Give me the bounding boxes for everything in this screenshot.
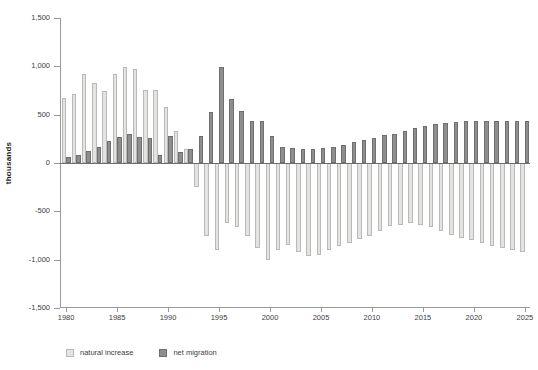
bar-natural-increase-2015 — [418, 163, 422, 225]
bar-net-migration-1991 — [178, 152, 182, 163]
bar-net-migration-1986 — [127, 134, 131, 163]
bar-natural-increase-2006 — [327, 163, 331, 250]
y-tick-label: 1,500 — [4, 13, 50, 22]
bar-net-migration-1982 — [86, 151, 90, 163]
bar-natural-increase-2018 — [449, 163, 453, 235]
bar-natural-increase-2010 — [367, 163, 371, 236]
bar-natural-increase-1995 — [215, 163, 219, 250]
y-tick-label: 1,000 — [4, 61, 50, 70]
bar-net-migration-2010 — [372, 138, 376, 163]
bar-net-migration-2005 — [321, 148, 325, 163]
y-tick-mark — [54, 211, 60, 212]
bar-net-migration-2022 — [494, 121, 498, 163]
bar-net-migration-2025 — [525, 121, 529, 163]
bar-net-migration-2018 — [454, 122, 458, 163]
x-tick-mark — [117, 308, 118, 312]
bar-net-migration-1993 — [199, 136, 203, 163]
bar-net-migration-1995 — [219, 67, 223, 163]
population-change-bar-chart: thousands 1,5001,0005000-500-1,000-1,500… — [0, 0, 538, 370]
x-tick-mark — [168, 308, 169, 312]
bar-natural-increase-2002 — [286, 163, 290, 245]
bar-natural-increase-2003 — [296, 163, 300, 252]
x-tick-mark — [270, 308, 271, 312]
bar-net-migration-2012 — [392, 134, 396, 163]
bar-natural-increase-1980 — [62, 98, 66, 163]
x-tick-label: 2020 — [454, 313, 494, 322]
bar-natural-increase-2020 — [469, 163, 473, 240]
bar-net-migration-1989 — [158, 155, 162, 163]
x-tick-mark — [423, 308, 424, 312]
bar-natural-increase-1981 — [72, 94, 76, 163]
y-tick-mark — [54, 115, 60, 116]
y-tick-label: -1,000 — [4, 255, 50, 264]
bar-natural-increase-2001 — [276, 163, 280, 250]
bar-natural-increase-1998 — [245, 163, 249, 236]
bar-net-migration-1981 — [76, 155, 80, 163]
zero-baseline — [60, 163, 530, 164]
bar-net-migration-2011 — [382, 135, 386, 163]
bar-net-migration-2019 — [464, 121, 468, 163]
bar-natural-increase-1999 — [255, 163, 259, 248]
bar-net-migration-1985 — [117, 137, 121, 163]
x-tick-mark — [66, 308, 67, 312]
bar-natural-increase-2022 — [490, 163, 494, 246]
bar-net-migration-1994 — [209, 112, 213, 163]
bar-net-migration-1984 — [107, 141, 111, 163]
bar-net-migration-2009 — [362, 140, 366, 163]
bar-natural-increase-2016 — [429, 163, 433, 227]
bar-natural-increase-2023 — [500, 163, 504, 248]
bar-net-migration-1987 — [137, 137, 141, 163]
legend-label-net-migration: net migration — [173, 348, 216, 357]
x-tick-label: 2005 — [301, 313, 341, 322]
y-tick-mark — [54, 308, 60, 309]
x-tick-mark — [474, 308, 475, 312]
bar-net-migration-1999 — [260, 121, 264, 163]
y-tick-label: -1,500 — [4, 303, 50, 312]
bar-net-migration-1992 — [188, 149, 192, 163]
y-tick-label: 0 — [4, 158, 50, 167]
bar-net-migration-2013 — [403, 131, 407, 163]
y-tick-label: 500 — [4, 110, 50, 119]
bar-net-migration-1990 — [168, 136, 172, 163]
bar-natural-increase-2000 — [266, 163, 270, 260]
legend-swatch-natural-increase — [66, 349, 74, 357]
bar-natural-increase-1996 — [225, 163, 229, 223]
bar-net-migration-2023 — [505, 121, 509, 163]
bar-net-migration-2017 — [443, 123, 447, 163]
bar-net-migration-2016 — [433, 124, 437, 163]
bar-net-migration-2014 — [413, 128, 417, 163]
legend-item-net-migration[interactable]: net migration — [159, 348, 216, 357]
bar-net-migration-2003 — [301, 149, 305, 164]
bar-net-migration-1996 — [229, 99, 233, 163]
bar-natural-increase-2012 — [388, 163, 392, 226]
bar-net-migration-2002 — [290, 148, 294, 163]
bar-natural-increase-2009 — [357, 163, 361, 239]
bar-natural-increase-2013 — [398, 163, 402, 225]
bar-natural-increase-1989 — [153, 90, 157, 163]
legend-swatch-net-migration — [159, 349, 167, 357]
y-tick-mark — [54, 66, 60, 67]
x-tick-mark — [219, 308, 220, 312]
bar-natural-increase-1997 — [235, 163, 239, 227]
chart-legend: natural increase net migration — [66, 348, 243, 357]
bar-net-migration-2000 — [270, 136, 274, 163]
bar-net-migration-2006 — [331, 147, 335, 163]
bar-natural-increase-2024 — [510, 163, 514, 250]
bar-natural-increase-2014 — [408, 163, 412, 223]
legend-item-natural-increase[interactable]: natural increase — [66, 348, 133, 357]
bar-natural-increase-1982 — [82, 74, 86, 163]
x-tick-label: 2015 — [403, 313, 443, 322]
x-tick-label: 1990 — [148, 313, 188, 322]
bar-natural-increase-2021 — [480, 163, 484, 243]
x-tick-label: 2010 — [352, 313, 392, 322]
y-tick-label: -500 — [4, 206, 50, 215]
x-tick-label: 1980 — [46, 313, 86, 322]
x-tick-label: 1985 — [97, 313, 137, 322]
bar-natural-increase-2019 — [459, 163, 463, 238]
bar-net-migration-2015 — [423, 126, 427, 163]
x-tick-mark — [321, 308, 322, 312]
bar-net-migration-1997 — [239, 111, 243, 163]
y-tick-mark — [54, 18, 60, 19]
bar-net-migration-2020 — [474, 121, 478, 163]
bar-net-migration-2001 — [280, 147, 284, 163]
